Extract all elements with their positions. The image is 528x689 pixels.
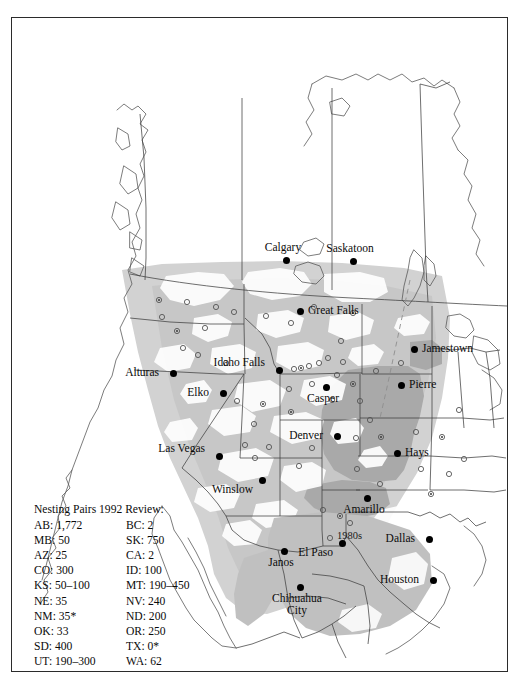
legend-entry-left: NE: 35	[34, 594, 126, 609]
legend-entry-left: CO: 300	[34, 563, 126, 578]
city-label: El Paso	[298, 547, 333, 559]
open-nest-marker	[337, 513, 342, 518]
open-nest-marker	[377, 481, 382, 486]
open-nest-marker	[195, 352, 200, 357]
city-dot	[398, 382, 405, 389]
open-nest-marker	[234, 398, 239, 403]
city-label: Las Vegas	[151, 443, 205, 455]
city-label: Winslow	[212, 484, 253, 496]
legend-entry-left: SD: 400	[34, 639, 126, 654]
open-nest-marker	[306, 363, 311, 368]
map-figure: CalgarySaskatoonGreat FallsJamestownAltu…	[0, 0, 528, 689]
legend-row: NE: 35NV: 240	[34, 594, 190, 609]
city-dot	[426, 536, 433, 543]
legend-row: UT: 190–300WA: 62	[34, 654, 190, 669]
map-frame: CalgarySaskatoonGreat FallsJamestownAltu…	[11, 17, 508, 672]
legend-entry-left: WY: 800	[34, 669, 126, 672]
legend-row: OK: 33OR: 250	[34, 624, 190, 639]
city-label: Calgary	[265, 242, 301, 254]
open-nest-marker	[334, 372, 339, 377]
open-nest-marker	[260, 401, 265, 406]
legend-row: MB: 50SK: 750	[34, 533, 190, 548]
legend-entry-left: NM: 35*	[34, 609, 126, 624]
open-nest-marker	[367, 417, 372, 422]
city-label: Denver	[289, 430, 323, 442]
open-nest-marker	[242, 442, 247, 447]
city-dot	[276, 367, 283, 374]
legend-entry-right: SK: 750	[126, 533, 190, 548]
city-dot	[216, 453, 223, 460]
open-nest-marker	[266, 444, 271, 449]
legend-row: AZ: 25CA: 2	[34, 548, 190, 563]
open-nest-marker	[174, 328, 179, 333]
open-nest-marker	[327, 535, 332, 540]
open-nest-marker	[378, 434, 383, 439]
city-dot	[350, 258, 357, 265]
legend: Nesting Pairs 1992 Review: AB: 1,772BC: …	[34, 502, 192, 672]
open-nest-marker	[347, 520, 352, 525]
city-label: Saskatoon	[326, 243, 373, 255]
open-nest-marker	[184, 299, 189, 304]
legend-table: AB: 1,772BC: 2MB: 50SK: 750AZ: 25CA: 2CO…	[34, 518, 190, 672]
open-nest-marker	[288, 409, 293, 414]
legend-entry-left: MB: 50	[34, 533, 126, 548]
open-nest-marker	[296, 463, 301, 468]
city-label: Alturas	[125, 367, 159, 379]
city-label: Houston	[380, 574, 419, 586]
city-label: Great Falls	[308, 305, 359, 317]
open-nest-marker	[446, 471, 451, 476]
city-dot	[339, 540, 346, 547]
legend-entry-right: CA: 2	[126, 548, 190, 563]
legend-entry-right: BC: 2	[126, 518, 190, 533]
legend-row: SD: 400TX: 0*	[34, 639, 190, 654]
city-dot	[297, 584, 304, 591]
city-label: Pierre	[409, 379, 436, 391]
city-dot	[170, 370, 177, 377]
city-label: Amarillo	[343, 504, 385, 516]
city-label: Janos	[268, 557, 294, 569]
open-nest-marker	[357, 398, 362, 403]
open-nest-marker	[316, 360, 321, 365]
open-nest-marker	[418, 466, 423, 471]
open-nest-marker	[413, 429, 418, 434]
open-nest-marker	[263, 313, 268, 318]
open-nest-marker	[180, 345, 185, 350]
city-dot	[323, 384, 330, 391]
open-nest-marker	[325, 355, 330, 360]
legend-title: Nesting Pairs 1992 Review:	[34, 502, 192, 517]
city-dot	[283, 257, 290, 264]
legend-entry-right: ID: 100	[126, 563, 190, 578]
open-nest-marker	[288, 320, 293, 325]
city-dot	[394, 450, 401, 457]
city-dot	[411, 346, 418, 353]
city-dot	[220, 390, 227, 397]
open-nest-marker	[353, 435, 358, 440]
legend-entry-left: KS: 50–100	[34, 578, 126, 593]
open-nest-marker	[456, 407, 461, 412]
city-label: Hays	[405, 447, 429, 459]
legend-entry-left: UT: 190–300	[34, 654, 126, 669]
open-nest-marker	[309, 381, 314, 386]
city-dot	[430, 577, 437, 584]
legend-entry-right	[126, 669, 190, 672]
legend-entry-left: AB: 1,772	[34, 518, 126, 533]
legend-entry-left: OK: 33	[34, 624, 126, 639]
decade-1980s: 1980s	[337, 530, 362, 541]
city-label: Dallas	[386, 533, 415, 545]
open-nest-marker	[428, 491, 433, 496]
open-nest-marker	[298, 365, 303, 370]
city-dot	[334, 433, 341, 440]
city-label: Casper	[307, 393, 339, 405]
open-nest-marker	[309, 445, 314, 450]
open-nest-marker	[354, 466, 359, 471]
legend-entry-right: OR: 250	[126, 624, 190, 639]
legend-entry-right: WA: 62	[126, 654, 190, 669]
open-nest-marker	[252, 455, 257, 460]
legend-row: AB: 1,772BC: 2	[34, 518, 190, 533]
legend-row: NM: 35*ND: 200	[34, 609, 190, 624]
open-nest-marker	[338, 338, 343, 343]
city-label: Idaho Falls	[211, 357, 265, 369]
legend-entry-right: ND: 200	[126, 609, 190, 624]
legend-entry-right: MT: 190–450	[126, 578, 190, 593]
city-dot	[259, 477, 266, 484]
